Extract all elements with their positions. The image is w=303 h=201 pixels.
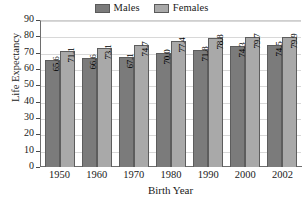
y-axis-tick-label: 50 <box>24 78 34 90</box>
bar-group: 66.673.1 <box>78 20 115 167</box>
y-axis-tick-label: 60 <box>24 62 34 74</box>
bar-value-label: 74.7 <box>141 42 150 57</box>
bar-females-1960[interactable]: 73.1 <box>97 48 112 167</box>
y-axis-tick: 90 <box>0 20 40 21</box>
y-axis-tick-label: 20 <box>24 127 34 139</box>
y-axis-tick: 80 <box>0 36 40 37</box>
bar-value-label: 79.7 <box>253 33 262 48</box>
y-axis-tick-label: 30 <box>24 111 34 123</box>
y-axis-tick-label: 90 <box>24 13 34 25</box>
x-axis-tick-label: 1950 <box>41 169 78 181</box>
x-axis-tick-label: 2000 <box>227 169 264 181</box>
bar-females-1980[interactable]: 77.4 <box>171 41 186 167</box>
legend-label-males: Males <box>114 3 140 13</box>
bar-males-1990[interactable]: 71.8 <box>193 50 208 167</box>
bar-males-2002[interactable]: 74.5 <box>267 45 282 167</box>
legend-entry-females: Females <box>154 3 209 13</box>
bar-group: 71.878.8 <box>190 20 227 167</box>
y-axis-tick: 0 <box>0 167 40 168</box>
bar-series-container: 65.671.166.673.167.174.770.077.471.878.8… <box>41 20 301 167</box>
y-axis-tick-label: 10 <box>24 144 34 156</box>
y-axis-tick: 70 <box>0 53 40 54</box>
bar-value-label: 79.9 <box>290 33 299 48</box>
bar-males-2000[interactable]: 74.3 <box>230 46 245 167</box>
y-axis-ticks: 0102030405060708090 <box>0 20 40 167</box>
chart-legend: Males Females <box>0 1 303 15</box>
x-axis-ticks: 1950196019701980199020002002 <box>41 167 301 183</box>
bar-group: 74.379.7 <box>227 20 264 167</box>
x-axis-tick-label: 2002 <box>264 169 301 181</box>
bar-group: 74.579.9 <box>264 20 301 167</box>
y-axis-tick-label: 70 <box>24 46 34 58</box>
x-axis-title: Birth Year <box>40 184 301 196</box>
x-axis-tick-label: 1960 <box>78 169 115 181</box>
y-axis-tick: 60 <box>0 69 40 70</box>
bar-group: 70.077.4 <box>152 20 189 167</box>
bar-value-label: 77.4 <box>178 37 187 52</box>
bar-females-1950[interactable]: 71.1 <box>60 51 75 167</box>
bar-value-label: 78.8 <box>216 35 225 50</box>
legend-swatch-females <box>154 4 169 13</box>
y-axis-tick: 50 <box>0 85 40 86</box>
x-axis-tick-label: 1980 <box>152 169 189 181</box>
legend-label-females: Females <box>173 3 209 13</box>
y-axis-tick: 20 <box>0 134 40 135</box>
bar-value-label: 71.1 <box>67 47 76 62</box>
bar-value-label: 73.1 <box>104 44 113 59</box>
bar-males-1980[interactable]: 70.0 <box>156 53 171 167</box>
legend-swatch-males <box>95 4 110 13</box>
x-axis-tick-label: 1990 <box>190 169 227 181</box>
y-axis-tick-label: 40 <box>24 95 34 107</box>
x-axis-tick-label: 1970 <box>115 169 152 181</box>
bar-group: 65.671.1 <box>41 20 78 167</box>
bar-females-2000[interactable]: 79.7 <box>245 37 260 167</box>
y-axis-tick: 10 <box>0 151 40 152</box>
bar-males-1970[interactable]: 67.1 <box>119 57 134 167</box>
bar-females-1990[interactable]: 78.8 <box>208 38 223 167</box>
bar-males-1960[interactable]: 66.6 <box>82 58 97 167</box>
y-axis-tick: 40 <box>0 102 40 103</box>
y-axis-tick-mark <box>36 167 40 168</box>
bar-females-2002[interactable]: 79.9 <box>282 37 297 168</box>
bar-group: 67.174.7 <box>115 20 152 167</box>
bar-males-1950[interactable]: 65.6 <box>45 60 60 167</box>
y-axis-tick-label: 0 <box>29 160 34 172</box>
legend-entry-males: Males <box>95 3 140 13</box>
y-axis-tick-label: 80 <box>24 29 34 41</box>
y-axis-tick: 30 <box>0 118 40 119</box>
bar-females-1970[interactable]: 74.7 <box>134 45 149 167</box>
bar-chart: Males Females Life Expectancy 0102030405… <box>0 0 303 201</box>
